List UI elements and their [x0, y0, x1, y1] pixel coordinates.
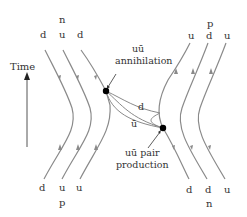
quark-line-left-3	[80, 50, 110, 179]
quark-label: u	[224, 185, 230, 195]
exchange-d-label: d	[138, 102, 144, 112]
annihilation-vertex	[103, 88, 109, 94]
quark-label: u	[188, 31, 194, 41]
particle-label-top-left: n	[59, 15, 65, 25]
quark-label: d	[205, 185, 211, 195]
time-arrow-icon	[24, 72, 30, 80]
quark-label: d	[206, 31, 212, 41]
quark-line-right-3	[198, 43, 226, 179]
pair-production-vertex	[160, 125, 166, 131]
pair-production-label-line1: uū pair	[125, 148, 160, 158]
particle-label-bottom-right: n	[206, 199, 212, 209]
quark-line-left-1	[44, 50, 73, 179]
annihilation-label-line2: annihilation	[115, 56, 173, 66]
quark-label: u	[59, 30, 65, 40]
exchange-ubar-label: ū	[131, 119, 137, 129]
feynman-diagram: Time n d u d p u d u d u u p d d u n uū …	[0, 0, 247, 217]
quark-label: u	[224, 31, 230, 41]
quark-label: d	[40, 30, 46, 40]
quark-label: d	[39, 183, 45, 193]
annihilation-label-line1: uū	[132, 44, 144, 54]
quark-label: u	[59, 183, 65, 193]
time-label: Time	[10, 62, 35, 72]
particle-label-bottom-left: p	[59, 198, 65, 208]
quark-label: d	[77, 30, 83, 40]
quark-line-left-2	[62, 50, 91, 179]
particle-label-top-right: p	[207, 19, 213, 29]
quark-line-right-2	[180, 43, 208, 179]
quark-label: d	[186, 185, 192, 195]
pair-production-label-line2: production	[116, 160, 169, 170]
quark-label: u	[76, 183, 82, 193]
